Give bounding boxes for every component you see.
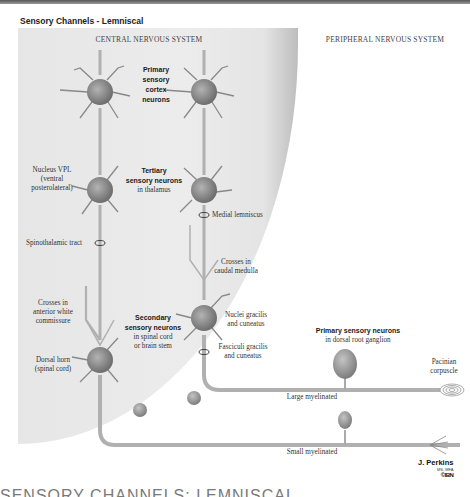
left-pathway (86, 50, 460, 445)
pathway-illustration (0, 0, 470, 497)
cortex-neuron-left (60, 66, 130, 118)
label-nuclei-gracilis: Nuclei gracilis and cuneatus (218, 311, 274, 329)
artist-signature: J. Perkins MS, MFA ©IBN (418, 458, 453, 478)
label-primary-cortex: Primary sensory cortex neurons (128, 65, 184, 105)
label-crosses-anterior: Crosses in anterior white commissure (28, 299, 78, 326)
cut-off-caption: SENSORY CHANNELS: LEMNISCAL (0, 487, 296, 497)
drg-large (333, 349, 357, 390)
label-pacinian: Pacinian corpuscle (422, 358, 466, 376)
label-nucleus-vpl: Nucleus VPL (ventral posterolateral) (22, 166, 82, 193)
label-fasciculi: Fasciculi gracilis and cuneatus (212, 343, 274, 361)
dorsal-horn-neuron (72, 338, 118, 382)
label-crosses-medulla: Crosses in caudal medulla (208, 258, 264, 276)
pacinian-corpuscle-icon (440, 384, 464, 396)
label-primary-drg: Primary sensory neurons in dorsal root g… (312, 326, 404, 345)
label-spinothalamic: Spinothalamic tract (26, 239, 82, 248)
publisher-logo: ©IBN (418, 472, 453, 478)
label-dorsal-horn: Dorsal horn (spinal cord) (28, 356, 78, 374)
label-large-myelinated: Large myelinated (282, 393, 342, 402)
label-tertiary: Tertiary sensory neurons in thalamus (116, 166, 192, 195)
label-secondary: Secondary sensory neurons in spinal cord… (118, 313, 188, 351)
small-ganglion-cell-1 (187, 391, 201, 405)
drg-small (338, 411, 352, 445)
small-ganglion-cell-2 (133, 403, 147, 417)
label-small-myelinated: Small myelinated (282, 448, 342, 457)
label-medial-lemniscus: Medial lemniscus (212, 211, 263, 220)
